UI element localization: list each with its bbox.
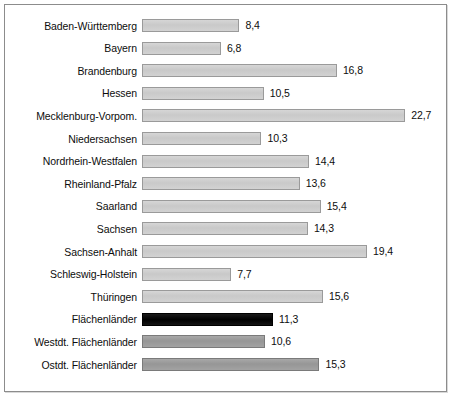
chart-frame: Baden-Württemberg8,4Bayern6,8Brandenburg… xyxy=(4,4,447,392)
bar xyxy=(142,335,265,348)
bar-track: 10,3 xyxy=(142,132,446,146)
bar-value-label: 10,6 xyxy=(271,335,291,348)
bar-category-label: Baden-Württemberg xyxy=(5,20,137,33)
bar-category-label: Ostdt. Flächenländer xyxy=(5,359,137,372)
bar-chart: Baden-Württemberg8,4Bayern6,8Brandenburg… xyxy=(5,5,446,391)
bar-category-label: Mecklenburg-Vorpom. xyxy=(5,110,137,123)
bar-track: 19,4 xyxy=(142,245,446,259)
bar-row: Nordrhein-Westfalen14,4 xyxy=(5,155,446,169)
bar-value-label: 15,3 xyxy=(325,358,345,371)
bar xyxy=(142,132,261,145)
bar xyxy=(142,19,239,32)
bar-track: 13,6 xyxy=(142,177,446,191)
bar-category-label: Hessen xyxy=(5,87,137,100)
bar-track: 10,6 xyxy=(142,335,446,349)
bar-category-label: Schleswig-Holstein xyxy=(5,268,137,281)
bar-row: Bayern6,8 xyxy=(5,42,446,56)
bar-track: 14,3 xyxy=(142,222,446,236)
bar xyxy=(142,64,337,77)
bar-category-label: Sachsen-Anhalt xyxy=(5,246,137,259)
bar-value-label: 14,4 xyxy=(315,155,335,168)
bar-row: Hessen10,5 xyxy=(5,87,446,101)
bar-track: 15,6 xyxy=(142,290,446,304)
bar-row: Niedersachsen10,3 xyxy=(5,132,446,146)
bar xyxy=(142,200,321,213)
bar-value-label: 22,7 xyxy=(411,109,431,122)
bar-row: Saarland15,4 xyxy=(5,200,446,214)
bar xyxy=(142,268,231,281)
bar-track: 6,8 xyxy=(142,42,446,56)
bar xyxy=(142,358,319,371)
bar-track: 7,7 xyxy=(142,268,446,282)
bar-row: Ostdt. Flächenländer15,3 xyxy=(5,358,446,372)
bar-value-label: 10,3 xyxy=(267,132,287,145)
bar-track: 22,7 xyxy=(142,109,446,123)
bar-track: 10,5 xyxy=(142,87,446,101)
bar-row: Westdt. Flächenländer10,6 xyxy=(5,335,446,349)
bar-value-label: 14,3 xyxy=(314,222,334,235)
bar-track: 14,4 xyxy=(142,155,446,169)
bar xyxy=(142,42,221,55)
bar xyxy=(142,222,308,235)
bar xyxy=(142,290,323,303)
bar-category-label: Thüringen xyxy=(5,291,137,304)
bar-row: Schleswig-Holstein7,7 xyxy=(5,268,446,282)
bar xyxy=(142,155,309,168)
bar-row: Rheinland-Pfalz13,6 xyxy=(5,177,446,191)
bar-row: Thüringen15,6 xyxy=(5,290,446,304)
bar xyxy=(142,245,367,258)
bar-category-label: Westdt. Flächenländer xyxy=(5,336,137,349)
bar xyxy=(142,177,300,190)
bar-value-label: 11,3 xyxy=(279,313,298,326)
bar xyxy=(142,87,264,100)
bar-category-label: Bayern xyxy=(5,42,137,55)
bar-value-label: 13,6 xyxy=(306,177,326,190)
bar-track: 16,8 xyxy=(142,64,446,78)
bar-value-label: 6,8 xyxy=(227,42,241,55)
bar xyxy=(142,313,273,326)
bar-value-label: 16,8 xyxy=(343,64,363,77)
bar-category-label: Rheinland-Pfalz xyxy=(5,178,137,191)
bar-row: Sachsen-Anhalt19,4 xyxy=(5,245,446,259)
bar-row: Mecklenburg-Vorpom.22,7 xyxy=(5,109,446,123)
bar-category-label: Flächenländer xyxy=(5,313,137,326)
bar-category-label: Saarland xyxy=(5,200,137,213)
bar-category-label: Niedersachsen xyxy=(5,133,137,146)
bar-value-label: 7,7 xyxy=(237,268,251,281)
bar-value-label: 10,5 xyxy=(270,87,290,100)
bar-category-label: Brandenburg xyxy=(5,65,137,78)
bar-row: Baden-Württemberg8,4 xyxy=(5,19,446,33)
bar-value-label: 15,4 xyxy=(327,200,347,213)
bar-track: 11,3 xyxy=(142,313,446,327)
bar-track: 8,4 xyxy=(142,19,446,33)
bar-track: 15,3 xyxy=(142,358,446,372)
bar-row: Flächenländer11,3 xyxy=(5,313,446,327)
bar-category-label: Nordrhein-Westfalen xyxy=(5,155,137,168)
bar-row: Sachsen14,3 xyxy=(5,222,446,236)
bar-row: Brandenburg16,8 xyxy=(5,64,446,78)
bar-track: 15,4 xyxy=(142,200,446,214)
bar-value-label: 19,4 xyxy=(373,245,393,258)
bar xyxy=(142,109,405,122)
bar-category-label: Sachsen xyxy=(5,223,137,236)
bar-value-label: 15,6 xyxy=(329,290,349,303)
bar-value-label: 8,4 xyxy=(245,19,259,32)
